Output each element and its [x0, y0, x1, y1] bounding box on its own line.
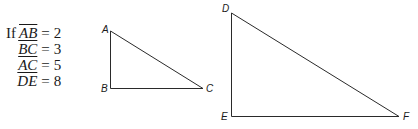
- label-d: D: [222, 3, 229, 14]
- label-f: F: [403, 111, 410, 122]
- edge-ac: [111, 31, 204, 89]
- triangle-abc: A B C: [101, 24, 214, 94]
- label-c: C: [206, 83, 214, 94]
- label-e: E: [221, 111, 228, 122]
- label-a: A: [101, 24, 109, 35]
- label-b: B: [101, 83, 108, 94]
- triangles-diagram: A B C D E F: [0, 0, 418, 129]
- triangle-def: D E F: [221, 3, 410, 122]
- edge-df: [232, 13, 400, 117]
